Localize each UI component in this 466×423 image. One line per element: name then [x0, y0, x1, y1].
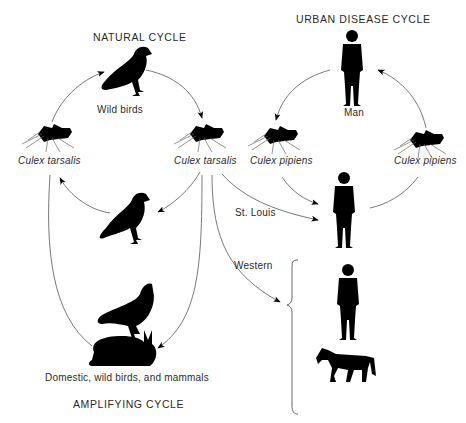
- urban-cycle-title: URBAN DISEASE CYCLE: [296, 13, 431, 25]
- arrow-mosquito-center-to-amplifying: [158, 175, 202, 348]
- mosquito-icon: [248, 126, 300, 154]
- person-icon: [341, 30, 363, 106]
- horse-icon: [316, 348, 376, 382]
- chicken-icon: [98, 284, 154, 340]
- bird-icon: [102, 47, 153, 96]
- amplifying-cycle-title: AMPLIFYING CYCLE: [73, 398, 184, 410]
- arrow-wildbird-to-mosquito: [146, 70, 202, 118]
- line-pipiens-right-to-man: [370, 177, 418, 208]
- mosquito-icon: [174, 124, 226, 152]
- diagram-graphics: [0, 0, 466, 423]
- arrow-bird-middle-to-mosquito-left: [60, 178, 110, 213]
- culex-tarsalis-left-label: Culex tarsalis: [18, 155, 81, 166]
- domestic-hosts-label: Domestic, wild birds, and mammals: [45, 372, 209, 383]
- person-icon: [333, 172, 355, 248]
- mosquito-icon: [22, 124, 74, 152]
- man-label: Man: [344, 107, 364, 118]
- culex-pipiens-right-label: Culex pipiens: [394, 155, 457, 166]
- arrow-man-to-pipiens-left: [276, 70, 330, 120]
- line-mosquito-left-to-amplifying: [49, 175, 92, 346]
- arrow-pipiens-right-to-man: [378, 70, 426, 128]
- western-brace: [287, 260, 298, 414]
- western-label: Western: [234, 260, 272, 271]
- rabbit-icon: [89, 330, 156, 366]
- encephalitis-cycle-diagram: NATURAL CYCLE URBAN DISEASE CYCLE AMPLIF…: [0, 0, 466, 423]
- wild-birds-label: Wild birds: [97, 104, 143, 115]
- bird-icon: [100, 193, 150, 244]
- mosquito-icon: [394, 130, 446, 158]
- culex-pipiens-left-label: Culex pipiens: [250, 155, 313, 166]
- person-icon: [337, 264, 359, 340]
- arrow-mosquito-to-bird-middle: [158, 172, 200, 212]
- st-louis-label: St. Louis: [235, 207, 276, 218]
- natural-cycle-title: NATURAL CYCLE: [93, 31, 187, 43]
- culex-tarsalis-center-label: Culex tarsalis: [174, 155, 237, 166]
- arrow-pipiens-left-to-man: [282, 177, 318, 204]
